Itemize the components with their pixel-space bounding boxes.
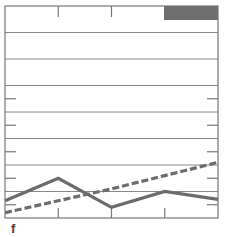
corner-box	[164, 6, 218, 20]
panel-label: f	[11, 222, 15, 235]
series-lines	[5, 162, 218, 212]
line-chart	[0, 0, 228, 237]
grid-lines	[5, 33, 218, 192]
series-solid	[5, 178, 218, 207]
